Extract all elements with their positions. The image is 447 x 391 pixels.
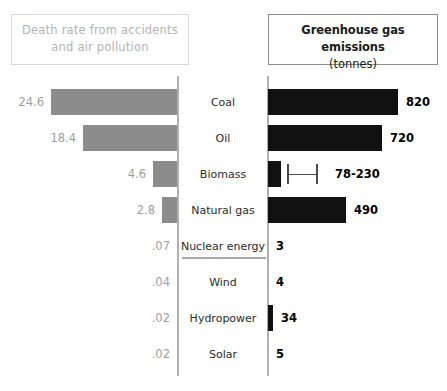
left-value-label: .02: [152, 347, 170, 361]
right-value-label: 78-230: [335, 167, 380, 181]
left-value-label: .02: [152, 311, 170, 325]
left-bar-group: 24.6: [0, 84, 177, 120]
left-bar-group: .02: [0, 300, 177, 336]
legend-box-death-rate: Death rate from accidents and air pollut…: [11, 14, 189, 65]
left-value-label: 4.6: [128, 167, 146, 181]
left-value-label: .04: [152, 275, 170, 289]
right-bar: [268, 197, 346, 223]
left-bar-group: .02: [0, 336, 177, 372]
right-bar: [268, 161, 281, 187]
left-value-label: 24.6: [18, 95, 44, 109]
right-value-label: 34: [281, 311, 297, 325]
left-value-label: 2.8: [137, 203, 155, 217]
left-bar: [162, 197, 177, 223]
right-bar-group: 3: [268, 228, 284, 264]
chart-row: 24.6Coal820: [0, 84, 447, 120]
right-value-label: 3: [276, 239, 284, 253]
chart-row: .04Wind4: [0, 264, 447, 300]
category-label: Natural gas: [180, 192, 266, 228]
right-bar-group: 34: [268, 300, 297, 336]
error-bar-stem: [287, 174, 317, 176]
left-value-label: 18.4: [50, 131, 76, 145]
right-bar-group: 78-230: [268, 156, 380, 192]
legend-box-emissions: Greenhouse gas emissions (tonnes): [268, 14, 438, 65]
left-bar-group: 18.4: [0, 120, 177, 156]
right-bar: [268, 305, 273, 331]
category-label: Coal: [180, 84, 266, 120]
error-bar-range: [283, 161, 327, 187]
right-bar: [268, 89, 398, 115]
legend-right-title: Greenhouse gas emissions: [269, 22, 437, 56]
category-label: Solar: [180, 336, 266, 372]
left-bar-group: .07: [0, 228, 177, 264]
right-bar-group: 820: [268, 84, 430, 120]
category-label: Hydropower: [180, 300, 266, 336]
right-bar: [268, 125, 382, 151]
category-label: Biomass: [180, 156, 266, 192]
comparison-chart: Death rate from accidents and air pollut…: [0, 0, 447, 391]
chart-row: .02Solar5: [0, 336, 447, 372]
category-separator-rule: [182, 257, 266, 259]
chart-row: 18.4Oil720: [0, 120, 447, 156]
left-bar-group: .04: [0, 264, 177, 300]
error-bar-cap-high: [316, 164, 318, 184]
left-bar: [83, 125, 177, 151]
left-bar-group: 2.8: [0, 192, 177, 228]
right-value-label: 4: [276, 275, 284, 289]
right-bar-group: 490: [268, 192, 378, 228]
right-bar-group: 4: [268, 264, 284, 300]
error-bar-cap-low: [287, 164, 289, 184]
right-value-label: 720: [390, 131, 414, 145]
left-bar-group: 4.6: [0, 156, 177, 192]
right-value-label: 490: [354, 203, 378, 217]
legend-right-unit: (tonnes): [269, 56, 437, 73]
legend-left-line2: and air pollution: [51, 40, 148, 54]
chart-row: 2.8Natural gas490: [0, 192, 447, 228]
category-label: Oil: [180, 120, 266, 156]
legend-left-line1: Death rate from accidents: [22, 23, 178, 37]
left-bar: [51, 89, 177, 115]
chart-row: .02Hydropower34: [0, 300, 447, 336]
right-value-label: 5: [276, 347, 284, 361]
right-value-label: 820: [406, 95, 430, 109]
chart-row: 4.6Biomass78-230: [0, 156, 447, 192]
right-bar-group: 720: [268, 120, 414, 156]
left-bar: [153, 161, 177, 187]
left-value-label: .07: [152, 239, 170, 253]
category-label: Wind: [180, 264, 266, 300]
right-bar-group: 5: [268, 336, 284, 372]
